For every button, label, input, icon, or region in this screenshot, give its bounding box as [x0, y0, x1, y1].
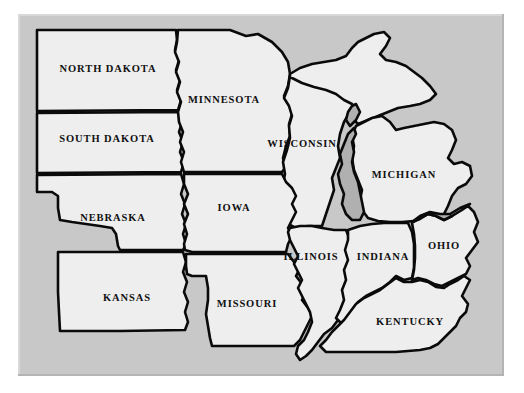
- state-label-indiana: INDIANA: [357, 251, 409, 262]
- state-label-nebraska: NEBRASKA: [80, 212, 146, 223]
- state-label-wisconsin: WISCONSIN: [267, 138, 336, 149]
- state-label-south-dakota: SOUTH DAKOTA: [59, 133, 155, 144]
- state-label-iowa: IOWA: [218, 202, 251, 213]
- state-label-kansas: KANSAS: [103, 292, 151, 303]
- states-layer: [37, 30, 478, 360]
- map-page: NORTH DAKOTASOUTH DAKOTAMINNESOTAWISCONS…: [0, 0, 524, 393]
- state-label-missouri: MISSOURI: [217, 298, 277, 309]
- state-label-michigan: MICHIGAN: [372, 169, 436, 180]
- map-panel: NORTH DAKOTASOUTH DAKOTAMINNESOTAWISCONS…: [18, 14, 504, 376]
- midwest-map-svg: NORTH DAKOTASOUTH DAKOTAMINNESOTAWISCONS…: [18, 14, 504, 376]
- state-label-kentucky: KENTUCKY: [376, 316, 444, 327]
- state-label-minnesota: MINNESOTA: [188, 94, 260, 105]
- state-label-illinois: ILLINOIS: [283, 251, 338, 262]
- state-label-ohio: OHIO: [428, 240, 460, 251]
- state-label-north-dakota: NORTH DAKOTA: [60, 63, 157, 74]
